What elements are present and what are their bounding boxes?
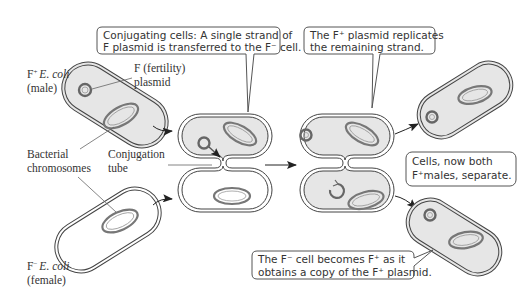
conjugating-pair-1	[178, 114, 272, 212]
svg-text:The F⁻ cell becomes F⁺ as it: The F⁻ cell becomes F⁺ as it	[257, 253, 405, 265]
male-label: F+E. coli	[27, 68, 69, 80]
svg-text:Conjugating cells: A single st: Conjugating cells: A single strand of	[103, 29, 293, 41]
bacterial-conjugation-diagram: F+E. coli (male) F (fertility) plasmid B…	[0, 0, 526, 302]
svg-text:F⁺males, separate.: F⁺males, separate.	[412, 169, 511, 181]
plasmid-label-sub: plasmid	[134, 76, 171, 89]
male-label-sub: (male)	[27, 82, 57, 95]
tube-label: Conjugation	[108, 148, 165, 161]
tube-label-sub: tube	[108, 162, 128, 174]
female-label: F−E. coli	[27, 260, 69, 272]
chromosome-leader-top	[80, 127, 114, 149]
chromosomes-label-sub: chromosomes	[27, 162, 91, 174]
svg-text:obtains a copy of the F⁺ plasm: obtains a copy of the F⁺ plasmid.	[258, 266, 432, 278]
svg-text:the remaining strand.: the remaining strand.	[310, 41, 424, 53]
svg-text:The F⁺ plasmid replicates: The F⁺ plasmid replicates	[309, 29, 444, 41]
arrow-to-top-separated	[395, 124, 418, 134]
svg-text:F plasmid is transferred to th: F plasmid is transferred to the F⁻ cell.	[103, 41, 301, 53]
callout-becomes: The F⁻ cell becomes F⁺ as it obtains a c…	[252, 250, 433, 279]
chromosomes-label: Bacterial	[27, 148, 69, 160]
callout-replicates: The F⁺ plasmid replicates the remaining …	[304, 27, 444, 108]
conjugating-pair-2	[300, 114, 394, 212]
separated-cell-top	[408, 52, 522, 148]
callout-separate: Cells, now both F⁺males, separate.	[406, 152, 516, 186]
svg-text:Cells, now both: Cells, now both	[412, 155, 493, 167]
plasmid-label: F (fertility)	[134, 62, 186, 75]
female-label-sub: (female)	[27, 274, 66, 287]
